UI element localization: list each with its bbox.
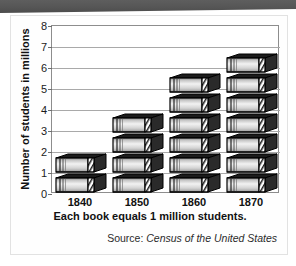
book-icon — [110, 173, 166, 195]
book-icon — [110, 133, 166, 155]
book-unit — [110, 113, 166, 134]
book-unit — [53, 153, 109, 174]
book-icon — [224, 53, 280, 75]
source-title: Census of the United States — [146, 232, 277, 244]
book-unit — [167, 173, 223, 194]
book-stack — [110, 114, 166, 194]
plot-area: 012345678 — [51, 25, 279, 193]
x-tick-label: 1870 — [216, 196, 286, 208]
book-unit — [224, 113, 280, 134]
chart-card: Number of students in millions 012345678… — [10, 15, 288, 255]
y-tick-label: 7 — [41, 42, 47, 53]
y-axis-title: Number of students in millions — [18, 25, 32, 193]
book-unit — [167, 153, 223, 174]
book-unit — [53, 173, 109, 194]
source-prefix: Source: — [107, 232, 146, 244]
book-unit — [110, 173, 166, 194]
book-stack — [53, 154, 109, 194]
book-icon — [224, 133, 280, 155]
book-icon — [53, 173, 109, 195]
y-tick-label: 3 — [41, 126, 47, 137]
book-stacks — [52, 26, 280, 194]
book-icon — [167, 173, 223, 195]
book-icon — [224, 173, 280, 195]
book-icon — [167, 93, 223, 115]
y-tick-label: 4 — [41, 105, 47, 116]
book-unit — [167, 93, 223, 114]
source-note: Source: Census of the United States — [107, 232, 277, 244]
book-icon — [167, 153, 223, 175]
y-tick-label: 8 — [41, 21, 47, 32]
book-icon — [110, 113, 166, 135]
book-unit — [224, 53, 280, 74]
book-unit — [224, 93, 280, 114]
chart-caption: Each book equals 1 million students. — [11, 210, 289, 222]
book-unit — [167, 73, 223, 94]
book-unit — [110, 153, 166, 174]
book-unit — [167, 133, 223, 154]
plot-wrapper: 012345678 1840185018601870 — [51, 25, 279, 208]
book-icon — [110, 153, 166, 175]
book-icon — [224, 113, 280, 135]
y-tick-label: 2 — [41, 147, 47, 158]
book-icon — [167, 113, 223, 135]
book-unit — [224, 133, 280, 154]
book-icon — [224, 153, 280, 175]
y-tick-label: 1 — [41, 168, 47, 179]
top-decoration-bar — [0, 0, 296, 13]
book-icon — [224, 93, 280, 115]
book-icon — [53, 153, 109, 175]
book-unit — [224, 73, 280, 94]
book-icon — [167, 73, 223, 95]
y-tick-label: 6 — [41, 63, 47, 74]
book-icon — [167, 133, 223, 155]
book-stack — [224, 54, 280, 194]
book-unit — [167, 113, 223, 134]
book-unit — [224, 153, 280, 174]
book-unit — [110, 133, 166, 154]
book-icon — [224, 73, 280, 95]
y-tick-label: 5 — [41, 84, 47, 95]
book-stack — [167, 74, 223, 194]
book-unit — [224, 173, 280, 194]
